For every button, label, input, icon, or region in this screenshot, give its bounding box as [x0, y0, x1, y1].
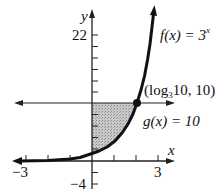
- y-tick-label-neg4: −4: [70, 177, 86, 192]
- y-axis-label: y: [81, 9, 88, 24]
- x-tick-label-3: 3: [154, 165, 162, 180]
- x-tick-label-neg3: −3: [12, 165, 28, 180]
- x-axis-label: x: [168, 143, 175, 158]
- g-line-right-arrow-icon: [166, 100, 175, 106]
- intersection-point: [133, 99, 141, 107]
- point-label: (log310, 10): [144, 83, 215, 100]
- f-label-exponent: x: [206, 25, 210, 35]
- shaded-region: [92, 103, 137, 153]
- f-curve-top-arrow-icon: [150, 5, 157, 16]
- f-label-text: f(x) = 3: [160, 27, 206, 43]
- point-label-post: 10, 10): [173, 82, 216, 98]
- f-function-label: f(x) = 3x: [160, 26, 210, 43]
- point-label-pre: (log: [144, 82, 168, 98]
- g-line-left-arrow-icon: [14, 100, 23, 106]
- x-axis-arrow-icon: [166, 158, 175, 164]
- g-function-label: g(x) = 10: [143, 114, 200, 129]
- y-axis-arrow-icon: [89, 9, 95, 18]
- y-tick-label-22: 22: [72, 28, 87, 43]
